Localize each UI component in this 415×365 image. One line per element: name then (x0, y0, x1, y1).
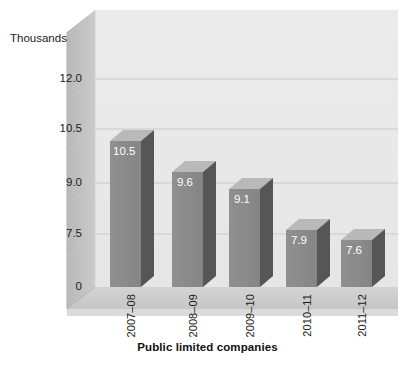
x-axis-ticks: 2007–08 2008–09 2009–10 2010–11 2011–12 (0, 0, 415, 365)
bar-chart: Thousands 12.0 10.5 9.0 7.5 0 10.5 9.6 9… (0, 0, 415, 365)
x-axis-title: Public limited companies (0, 341, 415, 353)
